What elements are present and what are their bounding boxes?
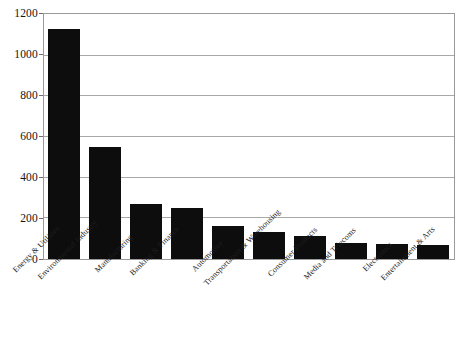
y-tick-label: 200 (4, 213, 38, 225)
bar-entertainment-arts (417, 245, 449, 259)
y-tick-label: 800 (4, 90, 38, 102)
y-tick-label: 1000 (4, 49, 38, 61)
y-tick-label: 400 (4, 172, 38, 184)
gridline (44, 55, 454, 56)
bar-environmental-industry (89, 147, 121, 259)
y-tick-label: 1200 (4, 8, 38, 20)
plot-area (43, 13, 455, 260)
gridline (44, 95, 454, 96)
y-tick-label: 600 (4, 131, 38, 143)
bar-chart: 1200 1000 800 600 400 200 0 (0, 0, 464, 362)
gridline (44, 136, 454, 137)
